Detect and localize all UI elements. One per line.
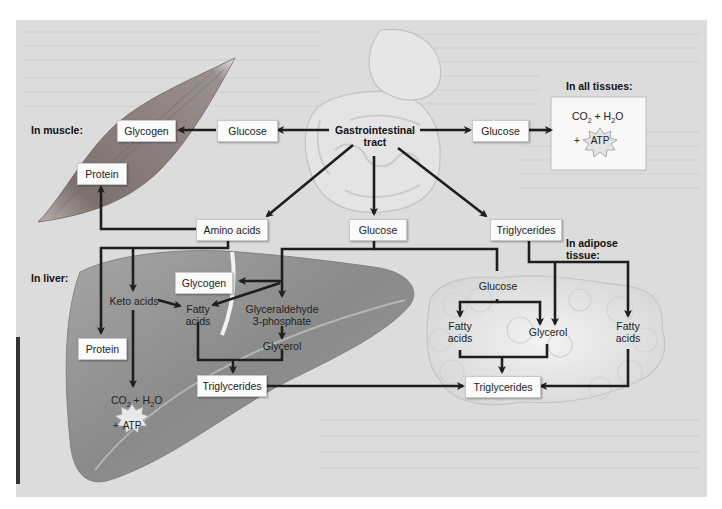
- all-tissues-equation: CO2 + H2O: [572, 110, 623, 124]
- region-label-muscle: In muscle:: [31, 124, 83, 136]
- liver-atp-label: ATP: [112, 420, 152, 431]
- g3p-label-2: 3-phosphate: [242, 315, 322, 327]
- liver-glycerol-label: Glycerol: [258, 340, 306, 352]
- keto-acids-label: Keto acids: [108, 295, 160, 307]
- adipose-fatty-acids-left-2: acids: [445, 332, 475, 344]
- all-tissues-atp-label: ATP: [580, 135, 620, 146]
- muscle-glycogen-box: Glycogen: [117, 120, 176, 142]
- glucose-center-box: Glucose: [349, 219, 407, 241]
- adipose-glycerol-label: Glycerol: [525, 326, 571, 338]
- adipose-fatty-acids-right-1: Fatty: [613, 320, 643, 332]
- adipose-glucose-label: Glucose: [478, 280, 518, 292]
- adipose-fatty-acids-right-2: acids: [613, 332, 643, 344]
- liver-equation: CO2 + H2O: [111, 394, 162, 408]
- liver-protein-box: Protein: [78, 338, 127, 360]
- adipose-triglycerides-box: Triglycerides: [465, 376, 541, 398]
- gi-tract-label-line1: Gastrointestinal: [330, 124, 420, 136]
- liver-fatty-acids-label-1: Fatty: [183, 303, 213, 315]
- liver-illustration: [66, 251, 414, 482]
- region-label-adipose-2: tissue:: [566, 249, 600, 261]
- muscle-protein-box: Protein: [77, 163, 127, 185]
- gi-tract-label-line2: tract: [330, 136, 420, 148]
- adipose-fatty-acids-left-1: Fatty: [445, 320, 475, 332]
- all-tissues-plus: +: [574, 135, 580, 146]
- region-label-liver: In liver:: [31, 272, 68, 284]
- region-label-adipose-1: In adipose: [566, 237, 618, 249]
- amino-acids-box: Amino acids: [196, 219, 268, 241]
- page-edge-bar: [16, 337, 20, 484]
- region-label-all-tissues: In all tissues:: [566, 80, 633, 92]
- glucose-right-box: Glucose: [472, 120, 529, 142]
- triglycerides-gi-box: Triglycerides: [490, 219, 562, 241]
- glucose-left-box: Glucose: [217, 120, 278, 142]
- liver-fatty-acids-label-2: acids: [183, 315, 213, 327]
- liver-triglycerides-box: Triglycerides: [197, 375, 267, 397]
- liver-glycogen-box: Glycogen: [175, 272, 233, 294]
- g3p-label-1: Glyceraldehyde: [242, 303, 322, 315]
